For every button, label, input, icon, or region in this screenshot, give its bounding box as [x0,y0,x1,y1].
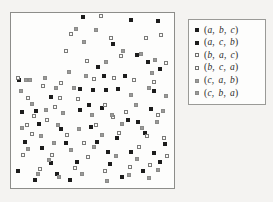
scatter-point [23,140,27,144]
scatter-point [16,169,20,173]
scatter-point [86,155,90,159]
scatter-point [82,141,86,145]
scatter-point [147,176,151,180]
scatter-point [121,49,125,53]
legend-item-label: (a, c, b) [204,38,238,48]
scatter-point [20,110,24,114]
scatter-point [73,166,77,170]
scatter-point [81,15,85,19]
scatter-point [156,168,160,172]
scatter-point [87,103,91,107]
legend-item-label: (c, a, b) [204,76,238,86]
legend-marker-icon [195,53,199,57]
scatter-point [47,158,51,162]
scatter-point [129,150,133,154]
scatter-point [126,118,130,122]
scatter-point [75,160,79,164]
scatter-point [103,169,107,173]
scatter-point [92,77,96,81]
scatter-point [78,87,82,91]
legend-item-bac[interactable]: (b, a, c) [195,49,260,62]
scatter-point [105,179,109,183]
legend-item-bca[interactable]: (b, c, a) [195,62,260,75]
scatter-point [56,123,60,127]
scatter-point [49,95,53,99]
scatter-point [16,76,20,80]
scatter-point [145,134,149,138]
legend-marker-icon [195,79,199,83]
scatter-point [30,132,34,136]
scatter-point [155,120,159,124]
scatter-point [84,74,88,78]
scatter-point [115,136,119,140]
scatter-point [134,103,138,107]
scatter-point [32,114,36,118]
legend-item-abc[interactable]: (a, b, c) [195,24,260,37]
scatter-point [152,151,156,155]
scatter-point [19,89,23,93]
scatter-point [95,140,99,144]
scatter-point [53,105,57,109]
scatter-point [30,102,34,106]
plot-panel [10,12,175,189]
scatter-point [64,49,68,53]
scatter-point [26,96,30,100]
scatter-point [164,94,168,98]
scatter-point [34,109,38,113]
scatter-point [90,113,94,117]
scatter-point [149,107,153,111]
legend-marker-icon [195,66,199,70]
scatter-point [74,27,78,31]
scatter-figure: (a, b, c)(a, c, b)(b, a, c)(b, c, a)(c, … [0,0,273,202]
plot-area [11,13,174,188]
scatter-point [104,88,108,92]
scatter-point [120,175,124,179]
scatter-point [45,118,49,122]
scatter-point [164,61,168,65]
scatter-point [94,123,98,127]
scatter-point [72,86,76,90]
scatter-point [152,80,156,84]
scatter-point [109,36,113,40]
legend-marker-icon [195,28,199,32]
scatter-point [69,148,73,152]
scatter-point [89,125,93,129]
scatter-point [91,88,95,92]
scatter-point [50,153,54,157]
scatter-point [163,142,167,146]
scatter-point [65,133,69,137]
scatter-point [156,113,160,117]
scatter-point [102,74,106,78]
scatter-point [110,113,114,117]
scatter-point [158,160,162,164]
scatter-point [162,136,166,140]
scatter-point [96,65,100,69]
legend-marker-icon [195,41,199,45]
scatter-point [37,122,41,126]
scatter-point [144,36,148,40]
scatter-point [43,76,47,80]
scatter-point [38,167,42,171]
scatter-point [99,14,103,18]
legend-box: (a, b, c)(a, c, b)(b, a, c)(b, c, a)(c, … [188,19,266,105]
legend-item-cba[interactable]: (c, b, a) [195,87,260,100]
scatter-point [69,32,73,36]
scatter-point [40,146,44,150]
scatter-point [61,111,65,115]
scatter-point [54,86,58,90]
scatter-point [129,93,133,97]
scatter-point [92,145,96,149]
scatter-point [41,84,45,88]
scatter-point [119,54,123,58]
scatter-point [161,109,165,113]
scatter-point [59,127,63,131]
scatter-point [150,71,154,75]
legend-item-acb[interactable]: (a, c, b) [195,37,260,50]
scatter-point [139,52,143,56]
scatter-point [103,103,107,107]
scatter-point [20,126,24,130]
legend-item-cab[interactable]: (c, a, b) [195,74,260,87]
scatter-point [141,169,145,173]
scatter-point [80,172,84,176]
legend-item-label: (b, a, c) [204,51,238,61]
